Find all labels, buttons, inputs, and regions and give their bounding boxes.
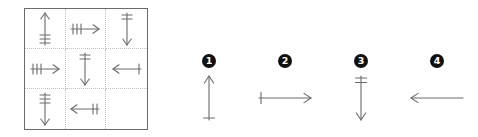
- matrix-cell-r2c2: [66, 49, 107, 89]
- option-4-badge-wrap: 4: [404, 50, 470, 68]
- matrix-cell-r2c3: [106, 49, 147, 89]
- option-1-arrow-icon: [176, 68, 242, 128]
- answer-options-row: 1 2 3 4: [176, 50, 472, 134]
- answer-option-4[interactable]: 4: [404, 50, 470, 128]
- option-3-badge-wrap: 3: [328, 50, 394, 68]
- option-2-number-badge: 2: [278, 54, 292, 68]
- matrix-cell-r3c2: [66, 89, 107, 129]
- answer-option-1[interactable]: 1: [176, 50, 242, 128]
- matrix-cell-r1c3: [106, 9, 147, 49]
- option-2-badge-wrap: 2: [252, 50, 318, 68]
- matrix-cell-r1c2: [66, 9, 107, 49]
- matrix-cell-r3c3-empty: [106, 89, 147, 129]
- option-4-number-badge: 4: [430, 54, 444, 68]
- option-4-arrow-icon: [404, 68, 470, 128]
- arrow-matrix-puzzle: 1 2 3 4: [0, 0, 478, 137]
- matrix-cells-container: [25, 9, 147, 129]
- answer-option-2[interactable]: 2: [252, 50, 318, 128]
- option-1-badge-wrap: 1: [176, 50, 242, 68]
- matrix-grid: [24, 8, 148, 130]
- option-1-number-badge: 1: [202, 54, 216, 68]
- answer-option-3[interactable]: 3: [328, 50, 394, 128]
- option-2-arrow-icon: [252, 68, 318, 128]
- matrix-cell-r3c1: [25, 89, 66, 129]
- matrix-cell-r1c1: [25, 9, 66, 49]
- matrix-cell-r2c1: [25, 49, 66, 89]
- option-3-arrow-icon: [328, 68, 394, 128]
- option-3-number-badge: 3: [354, 54, 368, 68]
